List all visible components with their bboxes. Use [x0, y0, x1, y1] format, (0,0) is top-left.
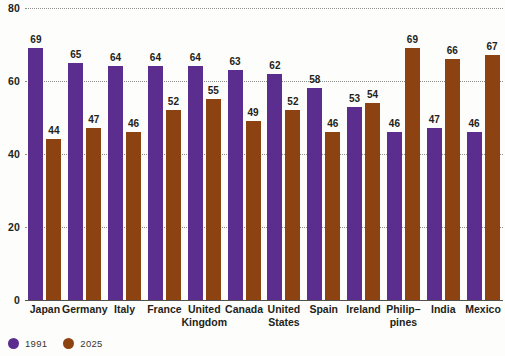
bars-layer: 6944654764466452645563496252584653544669… [25, 8, 503, 300]
bar-1991-philippines[interactable]: 46 [387, 132, 402, 300]
bar-fill [188, 66, 203, 300]
bar-value-label: 64 [110, 52, 121, 63]
x-axis-label-line1: Ireland [346, 303, 380, 315]
bar-fill [445, 59, 460, 300]
bar-fill [28, 48, 43, 300]
bar-value-label: 54 [367, 89, 378, 100]
y-axis-tick-label: 20 [8, 221, 20, 233]
legend-swatch-circle-icon [8, 338, 19, 349]
bar-2025-ireland[interactable]: 54 [365, 103, 380, 300]
bar-2025-spain[interactable]: 46 [325, 132, 340, 300]
bar-fill [365, 103, 380, 300]
bar-1991-germany[interactable]: 65 [68, 63, 83, 300]
y-axis-tick-label: 80 [8, 2, 20, 14]
bar-value-label: 47 [429, 114, 440, 125]
bar-fill [246, 121, 261, 300]
x-axis-label-line2: Kingdom [178, 316, 230, 329]
bar-fill [285, 110, 300, 300]
x-axis-label-line1: Japan [30, 303, 60, 315]
bar-group: 5846 [307, 8, 340, 300]
legend-label: 2025 [80, 338, 102, 349]
x-axis-label-line2: States [258, 316, 310, 329]
bar-value-label: 53 [349, 93, 360, 104]
bar-value-label: 65 [70, 49, 81, 60]
plot-area: 020406080 694465476446645264556349625258… [25, 8, 503, 300]
bar-value-label: 69 [30, 34, 41, 45]
axis-baseline [25, 300, 503, 302]
bar-value-label: 55 [208, 85, 219, 96]
x-axis-label-line1: Mexico [465, 303, 501, 315]
bar-2025-italy[interactable]: 46 [126, 132, 141, 300]
bar-fill [46, 139, 61, 300]
bar-1991-ireland[interactable]: 53 [347, 107, 362, 300]
bar-group: 4766 [427, 8, 460, 300]
bar-value-label: 64 [190, 52, 201, 63]
bar-2025-japan[interactable]: 44 [46, 139, 61, 300]
bar-fill [86, 128, 101, 300]
bar-fill [148, 66, 163, 300]
bar-fill [307, 88, 322, 300]
bar-2025-mexico[interactable]: 67 [485, 55, 500, 300]
bar-1991-india[interactable]: 47 [427, 128, 442, 300]
bar-group: 6455 [188, 8, 221, 300]
bar-group: 6452 [148, 8, 181, 300]
bar-2025-philippines[interactable]: 69 [405, 48, 420, 300]
bar-1991-spain[interactable]: 58 [307, 88, 322, 300]
bar-value-label: 52 [168, 96, 179, 107]
bar-fill [228, 70, 243, 300]
x-axis-label-line1: United [268, 303, 301, 315]
legend-swatch-circle-icon [63, 338, 74, 349]
bar-fill [325, 132, 340, 300]
legend-label: 1991 [25, 338, 47, 349]
bar-value-label: 46 [469, 118, 480, 129]
bar-value-label: 52 [287, 96, 298, 107]
bar-2025-india[interactable]: 66 [445, 59, 460, 300]
bar-1991-japan[interactable]: 69 [28, 48, 43, 300]
bar-group: 4669 [387, 8, 420, 300]
bar-1991-canada[interactable]: 63 [228, 70, 243, 300]
bar-value-label: 66 [447, 45, 458, 56]
bar-1991-unitedkingdom[interactable]: 64 [188, 66, 203, 300]
bar-1991-italy[interactable]: 64 [108, 66, 123, 300]
bar-group: 6349 [228, 8, 261, 300]
bar-1991-france[interactable]: 64 [148, 66, 163, 300]
y-axis-tick-label: 60 [8, 75, 20, 87]
bar-group: 6252 [267, 8, 300, 300]
bar-group: 6446 [108, 8, 141, 300]
chart-legend: 19912025 [8, 338, 103, 349]
bar-group: 5354 [347, 8, 380, 300]
bar-fill [427, 128, 442, 300]
bar-1991-unitedstates[interactable]: 62 [267, 74, 282, 300]
bar-value-label: 58 [309, 74, 320, 85]
bar-value-label: 46 [327, 118, 338, 129]
x-axis-label-line1: Philip– [386, 303, 420, 315]
y-axis-tick-label: 40 [8, 148, 20, 160]
bar-1991-mexico[interactable]: 46 [467, 132, 482, 300]
bar-2025-unitedstates[interactable]: 52 [285, 110, 300, 300]
bar-fill [485, 55, 500, 300]
x-axis-label-line2: pines [378, 316, 430, 329]
bar-fill [68, 63, 83, 300]
x-axis-label-line1: United [188, 303, 221, 315]
x-axis-label-line1: India [431, 303, 456, 315]
bar-fill [206, 99, 221, 300]
legend-item-2025[interactable]: 2025 [63, 338, 102, 349]
bar-chart: 020406080 694465476446645264556349625258… [0, 0, 505, 356]
bar-value-label: 69 [407, 34, 418, 45]
bar-2025-germany[interactable]: 47 [86, 128, 101, 300]
bar-fill [405, 48, 420, 300]
bar-group: 6944 [28, 8, 61, 300]
bar-2025-france[interactable]: 52 [166, 110, 181, 300]
bar-group: 4667 [467, 8, 500, 300]
bar-fill [108, 66, 123, 300]
bar-fill [166, 110, 181, 300]
x-axis-label-line1: Italy [114, 303, 135, 315]
bar-value-label: 46 [128, 118, 139, 129]
x-axis-label-line1: Spain [309, 303, 338, 315]
bar-fill [267, 74, 282, 300]
bar-2025-unitedkingdom[interactable]: 55 [206, 99, 221, 300]
bar-value-label: 49 [248, 107, 259, 118]
bar-2025-canada[interactable]: 49 [246, 121, 261, 300]
legend-item-1991[interactable]: 1991 [8, 338, 47, 349]
bar-value-label: 47 [88, 114, 99, 125]
